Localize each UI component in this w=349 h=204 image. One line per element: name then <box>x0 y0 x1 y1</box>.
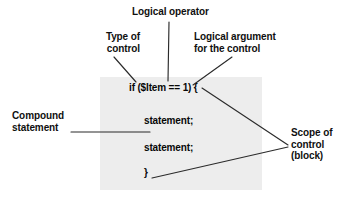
diagram-canvas: Logical operator Type of control Logical… <box>0 0 349 204</box>
code-line-if-statement: if ($Item == 1) { <box>129 82 198 94</box>
annotation-type-of-control: Type of control <box>54 31 140 54</box>
code-line-statement-1: statement; <box>144 115 193 127</box>
leader-line-logical-operator <box>168 22 169 81</box>
code-line-statement-2: statement; <box>144 142 193 154</box>
annotation-logical-argument: Logical argument for the control <box>194 31 276 54</box>
code-line-closing-brace: } <box>144 167 148 179</box>
annotation-scope-of-control: Scope of control (block) <box>291 127 332 162</box>
annotation-logical-operator: Logical operator <box>132 6 209 18</box>
annotation-compound-statement: Compound statement <box>12 110 64 133</box>
